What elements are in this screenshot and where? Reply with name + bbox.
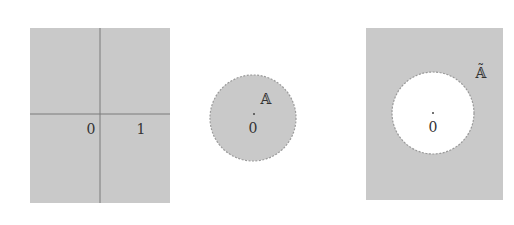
- unit-label: 1: [137, 121, 146, 137]
- set-a-tilde-label: 𝔸̃: [475, 63, 488, 81]
- panel-complement: 𝔸̃ 0: [366, 28, 503, 200]
- panel-disk: 𝔸 0: [210, 75, 296, 161]
- diagram-stage: 0 1 𝔸 0 𝔸̃ 0: [0, 0, 514, 225]
- origin-label: 0: [87, 121, 96, 137]
- disk-region: [210, 75, 296, 161]
- complement-origin-dot: [432, 112, 434, 114]
- panel-plane: 0 1: [30, 28, 170, 203]
- disk-origin-label: 0: [249, 120, 258, 136]
- set-a-label: 𝔸: [260, 91, 273, 107]
- complement-origin-label: 0: [429, 119, 438, 135]
- origin-dot: [253, 113, 255, 115]
